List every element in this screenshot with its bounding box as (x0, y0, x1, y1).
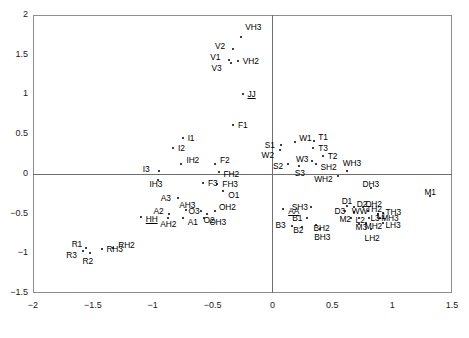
y-tick-label: 1.5 (2, 49, 28, 59)
data-point-label: IH3 (150, 180, 163, 188)
data-point (218, 171, 220, 173)
data-point (158, 170, 160, 172)
data-point-label: R1 (72, 240, 83, 248)
data-point-label: W1 (299, 134, 311, 142)
data-point-label: T2 (328, 152, 338, 160)
data-point-label: LH3 (386, 221, 401, 229)
data-point (279, 149, 281, 151)
data-point-label: FH2 (224, 170, 240, 178)
data-point-label: I2 (178, 144, 185, 152)
data-point-label: IH2 (186, 156, 199, 164)
data-point (312, 147, 314, 149)
data-point-label: S3 (295, 169, 305, 177)
x-tick-label: −0.5 (193, 300, 233, 310)
x-tick-label: −1.5 (73, 300, 113, 310)
data-point-label: R2 (82, 257, 93, 265)
data-point-label: T1 (318, 133, 328, 141)
data-point-label: WH3 (343, 159, 361, 167)
x-tick-label: −1 (133, 300, 173, 310)
y-tick-label: 1 (2, 88, 28, 98)
y-zero-reference-line (33, 174, 452, 175)
data-point-label: O3 (189, 207, 200, 215)
data-point (230, 62, 232, 64)
data-point-label: JJ (248, 90, 256, 98)
data-point-label: D1 (342, 197, 353, 205)
data-point-label: S1 (265, 141, 275, 149)
data-point (291, 225, 293, 227)
data-point (232, 124, 234, 126)
data-point-label: LH2 (365, 234, 380, 242)
y-tick-label: −0.5 (2, 208, 28, 218)
scatter-plot-figure: 21.510.50−0.5−1−1.5 −2−1.5−1−0.500.511.5… (0, 0, 469, 338)
data-point (237, 60, 239, 62)
data-point-label: M1 (424, 188, 435, 196)
data-point (112, 247, 114, 249)
x-tick-label: 0.5 (312, 300, 352, 310)
data-point-label: M2 (339, 215, 350, 223)
data-point (182, 137, 184, 139)
data-point (214, 163, 216, 165)
data-point-label: V1 (210, 53, 220, 61)
x-tick-label: 1 (372, 300, 412, 310)
data-point-label: SH3 (292, 203, 308, 211)
y-tick-label: 0 (2, 168, 28, 178)
data-point-label: MH2 (365, 222, 382, 230)
data-point (382, 222, 384, 224)
y-tick-label: 0.5 (2, 128, 28, 138)
data-point-label: B1 (292, 214, 302, 222)
data-point (172, 147, 174, 149)
data-point-label: AH2 (160, 220, 176, 228)
data-point (310, 206, 312, 208)
data-point-label: O1 (228, 191, 239, 199)
data-point-label: A1 (188, 218, 198, 226)
data-point-label: I1 (188, 134, 195, 142)
data-point-label: VH3 (245, 23, 261, 31)
data-point (182, 217, 184, 219)
y-tick-label: −1.5 (2, 287, 28, 297)
data-point-label: W2 (262, 151, 274, 159)
data-point-label: T3 (318, 144, 328, 152)
data-point-label: V2 (215, 42, 225, 50)
data-point-label: B3 (276, 221, 286, 229)
x-tick-label: −2 (13, 300, 53, 310)
data-point-label: RH2 (118, 241, 134, 249)
data-point (298, 165, 300, 167)
data-point-label: VH2 (243, 57, 259, 65)
data-point-label: OH2 (219, 203, 236, 211)
data-point-label: FH3 (222, 180, 238, 188)
data-point-label: A3 (161, 194, 171, 202)
data-point-label: F1 (238, 121, 248, 129)
y-tick-label: 2 (2, 9, 28, 19)
data-point-label: OH3 (209, 218, 226, 226)
x-tick-label: 1.5 (432, 300, 469, 310)
data-point-label: SH2 (321, 163, 337, 171)
data-point-label: S2 (273, 162, 283, 170)
data-point-label: F2 (220, 156, 230, 164)
data-point-label: WH2 (314, 175, 332, 183)
data-point (140, 216, 142, 218)
data-point-label: B2 (293, 226, 303, 234)
data-point-label: BH3 (314, 233, 330, 241)
x-tick-label: 0 (252, 300, 292, 310)
data-point-label: DH3 (363, 180, 379, 188)
data-point-label: R3 (66, 251, 77, 259)
data-point-label: V3 (212, 64, 222, 72)
data-point-label: W3 (296, 155, 308, 163)
data-point-label: HH (146, 215, 158, 223)
y-tick-label: −1 (2, 247, 28, 257)
data-point-label: I3 (143, 165, 150, 173)
data-point (85, 247, 87, 249)
